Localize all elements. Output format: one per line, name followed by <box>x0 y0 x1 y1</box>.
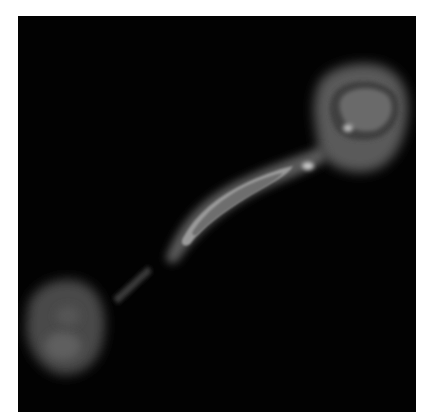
northeast-lobe <box>314 63 408 172</box>
radio-source-image <box>18 16 416 412</box>
curved-jet <box>166 148 326 263</box>
image-panel <box>18 16 416 412</box>
faint-counterjet <box>113 266 152 304</box>
southwest-lobe <box>26 280 105 375</box>
jet-knot <box>302 162 314 170</box>
